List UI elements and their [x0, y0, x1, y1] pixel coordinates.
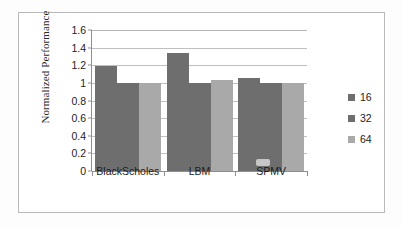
legend-item[interactable]: 64 [348, 129, 396, 150]
y-axis-title: Normalized Performance [39, 0, 51, 137]
bars-layer [92, 30, 307, 171]
y-axis-tick-label: 0.2 [71, 147, 86, 159]
plot-area: 00.20.40.60.811.21.41.6 [92, 30, 307, 171]
y-axis-tick-label: 1.6 [71, 24, 86, 36]
legend-item[interactable]: 16 [348, 87, 396, 108]
y-axis-tick-label: 0 [80, 165, 86, 177]
y-axis-tick-label: 0.6 [71, 112, 86, 124]
bar [189, 83, 211, 171]
y-axis-tick-label: 0.4 [71, 130, 86, 142]
bar [117, 83, 139, 171]
y-axis-tick-label: 0.8 [71, 95, 86, 107]
y-axis-tick-label: 1 [80, 77, 86, 89]
bar [95, 66, 117, 171]
x-axis-category-label: BlackScholes [92, 165, 164, 177]
x-axis-tick-mark [92, 171, 93, 176]
bar [238, 78, 260, 171]
legend-label: 16 [360, 92, 372, 103]
legend-label: 64 [360, 134, 372, 145]
legend-item[interactable]: 32 [348, 108, 396, 129]
bar [260, 83, 282, 171]
chart-frame: Normalized Performance 00.20.40.60.811.2… [18, 12, 385, 213]
chart-legend: 163264 [348, 87, 396, 150]
y-axis-tick-label: 1.2 [71, 59, 86, 71]
x-axis-category-label: SPMV [235, 165, 307, 177]
chart-figure: Normalized Performance 00.20.40.60.811.2… [0, 0, 403, 227]
legend-swatch-icon [348, 94, 355, 101]
bar [139, 83, 161, 171]
legend-swatch-icon [348, 115, 355, 122]
bar [211, 80, 233, 171]
x-axis-tick-mark [307, 171, 308, 176]
legend-swatch-icon [348, 136, 355, 143]
scan-artifact [256, 159, 270, 166]
y-axis-tick-label: 1.4 [71, 42, 86, 54]
bar [282, 83, 304, 171]
legend-label: 32 [360, 113, 372, 124]
bar [167, 53, 189, 171]
x-axis-category-label: LBM [164, 165, 236, 177]
